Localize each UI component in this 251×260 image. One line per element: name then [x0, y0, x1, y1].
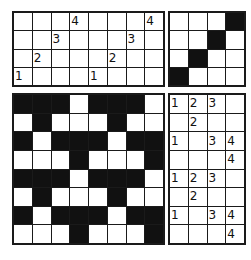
clue-grid-top-left-cells: 44332211 [12, 11, 165, 87]
grid-cell-empty [170, 31, 188, 48]
grid-cell-filled [189, 50, 207, 67]
grid-cell-filled [108, 114, 126, 132]
pattern-grid-top-right-cells [168, 11, 246, 87]
pattern-grid-bottom-left [12, 93, 165, 245]
cell-value: 3 [208, 135, 217, 147]
grid-cell-empty [170, 225, 188, 243]
grid-cell-empty [226, 114, 244, 132]
grid-cell-number: 4 [70, 13, 88, 30]
grid-cell-empty [189, 207, 207, 225]
grid-cell-filled [89, 207, 107, 225]
grid-cell-number: 4 [226, 225, 244, 243]
grid-cell-empty [189, 31, 207, 48]
grid-cell-empty [208, 151, 226, 169]
grid-cell-empty [108, 207, 126, 225]
grid-cell-empty [52, 225, 70, 243]
cell-value: 1 [170, 135, 179, 147]
cell-value: 4 [226, 209, 235, 221]
grid-cell-empty [189, 225, 207, 243]
pattern-grid-top-right [168, 11, 246, 87]
grid-cell-empty [14, 31, 32, 48]
cell-value: 3 [208, 172, 217, 184]
grid-cell-empty [145, 50, 163, 67]
clue-grid-bottom-right-cells: 1232134412321344 [168, 93, 246, 245]
grid-cell-empty [70, 114, 88, 132]
grid-cell-empty [52, 50, 70, 67]
grid-cell-empty [14, 114, 32, 132]
grid-cell-empty [208, 68, 226, 85]
cell-value: 4 [70, 15, 79, 27]
grid-cell-empty [127, 68, 145, 85]
grid-cell-empty [145, 68, 163, 85]
grid-cell-empty [145, 114, 163, 132]
grid-cell-number: 1 [170, 170, 188, 188]
grid-cell-empty [70, 170, 88, 188]
grid-cell-filled [89, 170, 107, 188]
grid-cell-number: 1 [14, 68, 32, 85]
grid-cell-number: 4 [226, 207, 244, 225]
grid-cell-filled [208, 31, 226, 48]
grid-cell-empty [89, 225, 107, 243]
grid-cell-empty [70, 50, 88, 67]
cell-value: 1 [89, 70, 98, 82]
grid-cell-empty [189, 151, 207, 169]
grid-cell-empty [208, 114, 226, 132]
grid-cell-empty [70, 188, 88, 206]
grid-cell-number: 2 [33, 50, 51, 67]
grid-cell-empty [14, 225, 32, 243]
grid-cell-empty [70, 31, 88, 48]
grid-cell-filled [33, 95, 51, 113]
grid-cell-filled [52, 95, 70, 113]
grid-cell-empty [170, 114, 188, 132]
cell-value: 3 [127, 33, 136, 45]
cell-value: 1 [14, 70, 23, 82]
grid-cell-number: 3 [208, 207, 226, 225]
grid-cell-filled [89, 95, 107, 113]
grid-cell-number: 1 [170, 132, 188, 150]
grid-cell-filled [108, 170, 126, 188]
grid-cell-empty [145, 31, 163, 48]
grid-cell-empty [52, 151, 70, 169]
cell-value: 1 [170, 97, 179, 109]
grid-cell-number: 3 [52, 31, 70, 48]
grid-cell-number: 2 [108, 50, 126, 67]
grid-cell-empty [33, 207, 51, 225]
grid-cell-empty [108, 31, 126, 48]
grid-cell-empty [33, 31, 51, 48]
grid-cell-number: 1 [89, 68, 107, 85]
grid-cell-empty [208, 188, 226, 206]
grid-cell-empty [70, 68, 88, 85]
grid-cell-empty [208, 50, 226, 67]
cell-value: 2 [189, 116, 198, 128]
grid-cell-empty [52, 188, 70, 206]
grid-cell-filled [145, 207, 163, 225]
grid-cell-filled [145, 151, 163, 169]
grid-cell-empty [127, 114, 145, 132]
grid-cell-number: 3 [208, 132, 226, 150]
grid-cell-empty [127, 225, 145, 243]
grid-cell-filled [70, 151, 88, 169]
grid-cell-empty [208, 13, 226, 30]
grid-cell-filled [70, 207, 88, 225]
grid-cell-number: 2 [189, 170, 207, 188]
cell-value: 4 [226, 228, 235, 240]
grid-cell-filled [14, 132, 32, 150]
grid-cell-empty [33, 68, 51, 85]
cell-value: 2 [189, 190, 198, 202]
cell-value: 1 [170, 172, 179, 184]
grid-cell-filled [14, 170, 32, 188]
grid-cell-empty [89, 13, 107, 30]
grid-cell-number: 3 [127, 31, 145, 48]
grid-cell-number: 2 [189, 114, 207, 132]
grid-cell-number: 1 [170, 207, 188, 225]
grid-cell-empty [189, 13, 207, 30]
grid-cell-filled [33, 188, 51, 206]
grid-cell-empty [89, 188, 107, 206]
cell-value: 3 [208, 209, 217, 221]
grid-cell-filled [70, 225, 88, 243]
grid-cell-empty [226, 31, 244, 48]
grid-cell-empty [52, 114, 70, 132]
cell-value: 4 [226, 135, 235, 147]
cell-value: 4 [226, 153, 235, 165]
cell-value: 3 [52, 33, 61, 45]
